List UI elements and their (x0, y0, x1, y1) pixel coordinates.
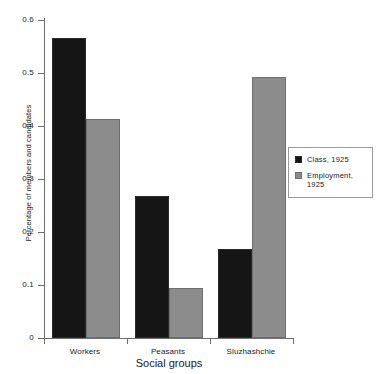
bar-peasants-class (135, 196, 169, 338)
x-axis-title: Social groups (44, 357, 294, 369)
y-tick-label-1: 0.1 (0, 281, 34, 289)
legend-label-employment-line2: 1925 (307, 180, 325, 189)
legend-item-employment: Employment, 1925 (295, 171, 366, 189)
y-tick-label-0: 0 (0, 334, 34, 342)
legend-swatch-employment-icon (295, 172, 302, 179)
y-tick-label-2: 0.2 (0, 228, 34, 236)
bar-chart: Percentage of members and candidates 0 0… (0, 0, 380, 374)
x-axis-line (44, 338, 294, 339)
x-tick-left (44, 338, 45, 344)
y-tick-label-5: 0.5 (0, 69, 34, 77)
x-tick-1 (127, 338, 128, 344)
legend-label-employment-line1: Employment, (307, 171, 353, 180)
legend-label-class: Class, 1925 (307, 155, 349, 164)
legend: Class, 1925 Employment, 1925 (288, 147, 373, 198)
x-tick-2 (210, 338, 211, 344)
y-axis-title: Percentage of members and candidates (25, 73, 33, 273)
legend-item-class: Class, 1925 (295, 155, 366, 164)
y-tick-label-3: 0.3 (0, 175, 34, 183)
y-tick-label-4: 0.4 (0, 122, 34, 130)
x-axis-label-sluzhashchie: Sluzhashchie (196, 347, 306, 356)
bar-workers-class (52, 38, 86, 339)
bar-sluzhashchie-class (218, 249, 252, 338)
y-tick-label-6: 0.6 (0, 16, 34, 24)
plot-area (44, 20, 293, 338)
bar-sluzhashchie-employment (252, 77, 286, 338)
bar-workers-employment (86, 119, 120, 338)
legend-swatch-class-icon (295, 156, 302, 163)
bar-peasants-employment (169, 288, 203, 338)
legend-label-employment: Employment, 1925 (307, 171, 353, 189)
x-tick-right (293, 338, 294, 344)
